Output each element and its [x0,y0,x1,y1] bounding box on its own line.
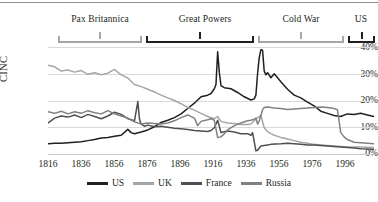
era-label-great-powers: Great Powers [155,14,255,24]
x-tick-label-1856: 1856 [98,159,130,169]
bracket-bar [58,41,142,43]
era-label-pax-britannica: Pax Britannica [55,14,145,24]
bracket-center-tick [300,32,302,39]
chart-figure: Pax Britannica Great Powers Cold War US … [0,0,378,202]
era-bracket-pax-britannica [58,32,142,43]
x-tick-label-1956: 1956 [263,159,295,169]
x-tick-label-1976: 1976 [296,159,328,169]
legend-item-uk: UK [133,179,172,189]
legend-label-russia: Russia [266,179,291,189]
bracket-cap-left [146,36,148,43]
x-tick-label-1876: 1876 [131,159,163,169]
x-tick-label-1916: 1916 [197,159,229,169]
bracket-center-tick [361,32,363,39]
legend-label-us: US [112,179,124,189]
bracket-center-tick [199,32,201,39]
legend-item-us: US [87,179,124,189]
era-label-us: US [345,14,377,24]
plot-area [48,47,374,155]
era-label-cold-war: Cold War [258,14,344,24]
series-lines [48,47,374,155]
legend-swatch-us [87,182,108,185]
top-rule [0,2,378,3]
legend-swatch-uk [133,182,154,185]
bracket-center-tick [99,32,101,39]
chart-legend: US UK France Russia [0,179,378,189]
bracket-bar [258,41,344,43]
legend-label-france: France [206,179,232,189]
legend-label-uk: UK [158,179,172,189]
legend-item-russia: Russia [241,179,291,189]
legend-swatch-france [181,182,202,185]
x-tick-label-1816: 1816 [32,159,64,169]
bracket-cap-right [140,36,142,43]
series-line-uk [48,65,374,147]
bracket-cap-right [252,36,254,43]
era-bracket-great-powers [146,32,254,43]
x-tick-label-1996: 1996 [329,159,361,169]
legend-item-france: France [181,179,232,189]
bracket-cap-left [58,36,60,43]
bracket-cap-left [258,36,260,43]
bracket-bar [146,41,254,43]
x-tick-label-1836: 1836 [65,159,97,169]
x-tick-label-1896: 1896 [164,159,196,169]
era-bracket-cold-war [258,32,344,43]
y-axis-title: CINC [0,56,9,82]
x-tick-label-1936: 1936 [230,159,262,169]
series-line-france [48,102,374,151]
legend-swatch-russia [241,182,262,185]
